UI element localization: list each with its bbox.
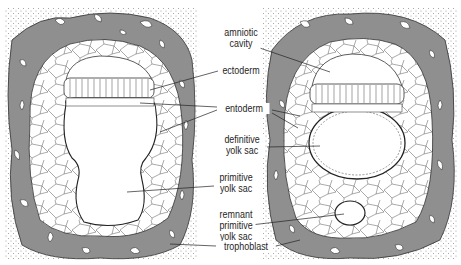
right-definitive-yolk-sac [309, 107, 405, 179]
right-ectoderm [310, 84, 404, 104]
embryo-diagram: amniotic cavity ectoderm entoderm defini… [0, 0, 461, 265]
right-remnant-primitive-yolk-sac [335, 201, 365, 225]
left-embryo-panel [5, 8, 197, 260]
label-remnant-primitive-yolk-sac: remnant primitive yolk sac [216, 209, 255, 242]
left-ectoderm [64, 78, 154, 98]
label-amniotic-cavity: amniotic cavity [221, 27, 260, 49]
label-trophoblast: trophoblast [219, 241, 273, 252]
label-primitive-yolk-sac: primitive yolk sac [216, 172, 257, 194]
label-definitive-yolk-sac: definitive yolk sac [219, 134, 265, 156]
label-ectoderm: ectoderm [219, 65, 263, 76]
left-primitive-yolk-sac [64, 98, 157, 226]
right-embryo-panel [262, 8, 458, 260]
label-entoderm: entoderm [219, 103, 270, 114]
